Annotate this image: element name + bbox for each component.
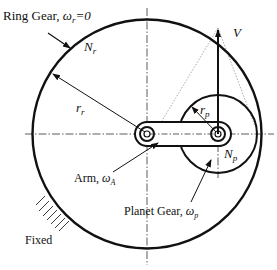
ring-teeth-label: Nr (83, 39, 97, 56)
arm-label: Arm, ωA (74, 171, 115, 187)
ring-radius-arrow (53, 74, 145, 132)
planet-gear-label: Planet Gear, ωp (124, 204, 198, 220)
planet-teeth-label: Np (223, 146, 238, 163)
ring-gear-label: Ring Gear, ωr=0 (3, 8, 91, 25)
planet-radius-label: rp (200, 102, 210, 119)
fixed-label: Fixed (25, 233, 52, 247)
planetary-gear-diagram: Ring Gear, ωr=0 Nr rr V rp Np Arm, ωA Pl… (0, 0, 277, 270)
arm-leader (113, 143, 158, 172)
ring-gear-leader (48, 33, 70, 48)
ring-radius-label: rr (76, 100, 85, 117)
velocity-label: V (233, 25, 243, 40)
planet-gear-leader (191, 160, 211, 202)
